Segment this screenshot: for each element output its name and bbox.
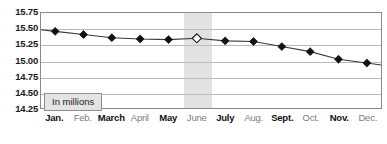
data-point-marker — [136, 35, 144, 43]
units-annotation: In millions — [44, 93, 102, 111]
x-axis-tick-label: Feb. — [74, 112, 92, 123]
y-axis-tick-label: 14.75 — [2, 71, 38, 82]
data-point-marker — [278, 43, 286, 51]
data-point-marker — [51, 27, 59, 35]
y-axis-tick-label: 14.50 — [2, 87, 38, 98]
data-point-marker — [335, 55, 343, 63]
x-axis-tick-label: Aug. — [244, 112, 263, 123]
y-axis-tick-label: 15.50 — [2, 22, 38, 33]
y-axis-tick-label: 15.00 — [2, 55, 38, 66]
x-axis: Jan.Feb.MarchAprilMayJuneJulyAug.Sept.Oc… — [40, 112, 382, 130]
line-chart: 15.7515.5015.2515.0014.7514.5014.25 In m… — [0, 0, 387, 144]
x-axis-tick-label: April — [131, 112, 149, 123]
x-axis-tick-label: May — [159, 112, 177, 123]
series-path — [41, 30, 381, 65]
data-point-marker-highlighted — [192, 34, 201, 43]
data-point-marker — [221, 37, 229, 45]
data-point-marker — [363, 59, 371, 67]
y-axis-tick-label: 14.25 — [2, 103, 38, 114]
x-axis-tick-label: Sept. — [271, 112, 293, 123]
data-point-marker — [306, 48, 314, 56]
x-axis-tick-label: July — [216, 112, 234, 123]
x-axis-tick-label: Nov. — [330, 112, 349, 123]
x-axis-tick-label: Dec. — [358, 112, 377, 123]
x-axis-tick-label: Jan. — [45, 112, 63, 123]
marker-group — [51, 27, 371, 67]
data-point-marker — [250, 38, 258, 46]
x-axis-tick-label: Oct. — [302, 112, 319, 123]
x-axis-tick-label: March — [98, 112, 125, 123]
x-axis-tick-label: June — [187, 112, 207, 123]
data-point-marker — [108, 34, 116, 42]
data-point-marker — [80, 31, 88, 39]
data-point-marker — [165, 36, 173, 44]
y-axis-tick-label: 15.25 — [2, 38, 38, 49]
y-axis-tick-label: 15.75 — [2, 6, 38, 17]
